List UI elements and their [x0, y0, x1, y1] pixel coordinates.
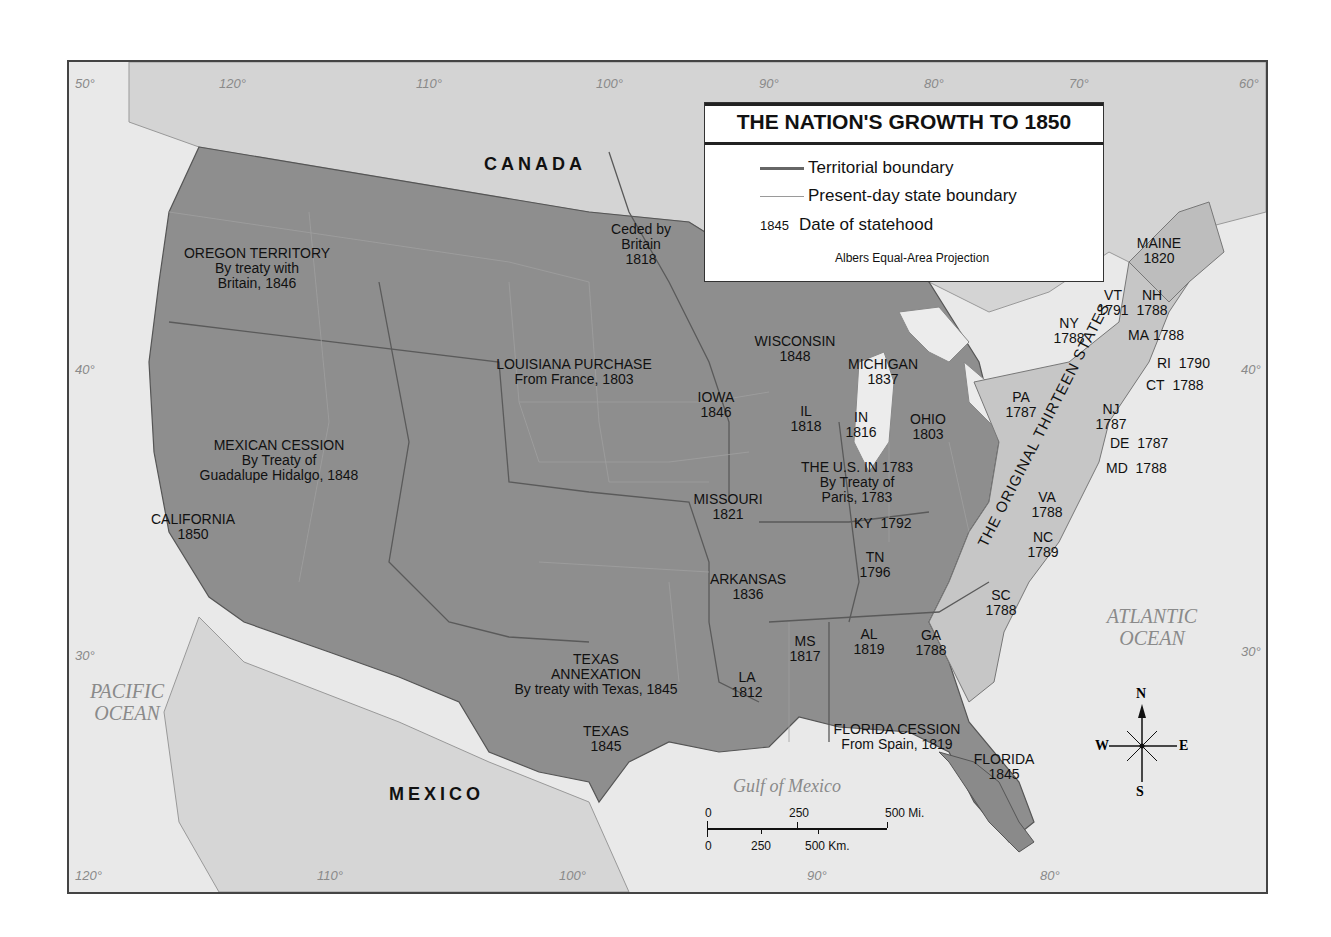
- territory-us-1783: THE U.S. IN 1783By Treaty ofParis, 1783: [801, 460, 913, 505]
- state-texas: TEXAS1845: [583, 724, 629, 754]
- compass-rose-icon: N S W E: [1097, 690, 1187, 800]
- map: THE NATION'S GROWTH TO 1850 Territorial …: [67, 60, 1268, 894]
- state-pennsylvania: PA1787: [1005, 390, 1036, 420]
- state-kentucky: KY 1792: [854, 516, 912, 531]
- lat-label-40-left: 40°: [75, 362, 95, 377]
- state-rhode-island: RI 1790: [1157, 356, 1210, 371]
- lat-label-40-right: 40°: [1241, 362, 1261, 377]
- scale-mi-250: 250: [789, 806, 809, 820]
- lat-label-30-left: 30°: [75, 648, 95, 663]
- territory-mexican-cession: MEXICAN CESSIONBy Treaty ofGuadalupe Hid…: [200, 438, 359, 483]
- state-iowa: IOWA1846: [698, 390, 735, 420]
- territorial-boundary-line-icon: [760, 167, 804, 170]
- scale-km-500: 500 Km.: [805, 839, 850, 853]
- scale-line: [707, 828, 887, 830]
- state-connecticut: CT 1788: [1146, 378, 1204, 393]
- compass-n: N: [1136, 686, 1146, 702]
- state-delaware: DE 1787: [1110, 436, 1168, 451]
- ocean-label-atlantic: ATLANTICOCEAN: [1107, 605, 1197, 649]
- lon-label-100-top: 100°: [596, 76, 623, 91]
- lon-label-80-top: 80°: [924, 76, 944, 91]
- state-new-hampshire: NH1788: [1136, 288, 1167, 318]
- state-south-carolina: SC1788: [985, 588, 1016, 618]
- legend-label: Present-day state boundary: [808, 186, 1017, 206]
- state-vermont: VT1791: [1097, 288, 1128, 318]
- compass-w: W: [1095, 738, 1109, 754]
- lon-label-80-bottom: 80°: [1040, 868, 1060, 883]
- state-north-carolina: NC1789: [1027, 530, 1058, 560]
- state-boundary-line-icon: [760, 196, 804, 197]
- state-indiana: IN1816: [845, 410, 876, 440]
- compass-s: S: [1136, 784, 1144, 800]
- state-maine: MAINE1820: [1137, 236, 1181, 266]
- statehood-date-sample: 1845: [760, 218, 789, 233]
- state-illinois: IL1818: [790, 404, 821, 434]
- territory-ceded-by-britain: Ceded byBritain1818: [611, 222, 671, 267]
- legend-label: Territorial boundary: [808, 158, 954, 178]
- state-louisiana: LA1812: [731, 670, 762, 700]
- legend-item-state-boundary: Present-day state boundary: [760, 186, 1017, 206]
- territory-louisiana-purchase: LOUISIANA PURCHASEFrom France, 1803: [496, 357, 652, 387]
- state-california: CALIFORNIA1850: [151, 512, 235, 542]
- state-maryland: MD 1788: [1106, 461, 1167, 476]
- territory-texas-annexation: TEXASANNEXATIONBy treaty with Texas, 184…: [514, 652, 677, 697]
- lon-label-70-top: 70°: [1069, 76, 1089, 91]
- lon-label-110-bottom: 110°: [317, 868, 343, 883]
- state-tennessee: TN1796: [859, 550, 890, 580]
- state-alabama: AL1819: [853, 627, 884, 657]
- lon-label-100-bottom: 100°: [559, 868, 586, 883]
- territory-florida-cession: FLORIDA CESSIONFrom Spain, 1819: [834, 722, 961, 752]
- state-new-jersey: NJ1787: [1095, 402, 1126, 432]
- state-wisconsin: WISCONSIN1848: [755, 334, 836, 364]
- country-label-mexico: MEXICO: [389, 784, 484, 805]
- territory-oregon: OREGON TERRITORYBy treaty withBritain, 1…: [184, 246, 330, 291]
- projection-note: Albers Equal-Area Projection: [835, 251, 989, 265]
- state-new-york: NY1788: [1053, 316, 1084, 346]
- lat-label-30-right: 30°: [1241, 644, 1261, 659]
- lon-label-90-bottom: 90°: [807, 868, 827, 883]
- state-massachusetts: MA 1788: [1128, 328, 1184, 343]
- state-florida: FLORIDA1845: [974, 752, 1035, 782]
- legend-item-territorial-boundary: Territorial boundary: [760, 158, 954, 178]
- ocean-label-gulf-of-mexico: Gulf of Mexico: [733, 775, 841, 797]
- state-virginia: VA1788: [1031, 490, 1062, 520]
- scale-km-250: 250: [751, 839, 771, 853]
- lat-label-50-left: 50°: [75, 76, 95, 91]
- lon-label-120-top: 120°: [219, 76, 246, 91]
- ocean-label-pacific: PACIFICOCEAN: [90, 680, 164, 724]
- lon-label-120-bottom: 120°: [75, 868, 102, 883]
- lon-label-110-top: 110°: [416, 76, 442, 91]
- state-missouri: MISSOURI1821: [693, 492, 762, 522]
- scale-bar: 0 250 500 Mi. 0 250 500 Km.: [705, 806, 945, 866]
- scale-km-0: 0: [705, 839, 712, 853]
- lat-label-60-right: 60°: [1239, 76, 1259, 91]
- country-label-canada: CANADA: [484, 154, 586, 175]
- legend-label: Date of statehood: [799, 215, 933, 235]
- scale-mi-500: 500 Mi.: [885, 806, 924, 820]
- state-ohio: OHIO1803: [910, 412, 946, 442]
- state-arkansas: ARKANSAS1836: [710, 572, 786, 602]
- lon-label-90-top: 90°: [759, 76, 779, 91]
- state-mississippi: MS1817: [789, 634, 820, 664]
- state-michigan: MICHIGAN1837: [848, 357, 918, 387]
- scale-mi-0: 0: [705, 806, 712, 820]
- legend-item-statehood-date: 1845 Date of statehood: [760, 215, 933, 235]
- map-legend: THE NATION'S GROWTH TO 1850 Territorial …: [704, 102, 1104, 282]
- map-title: THE NATION'S GROWTH TO 1850: [705, 103, 1103, 145]
- state-georgia: GA1788: [915, 628, 946, 658]
- compass-e: E: [1179, 738, 1188, 754]
